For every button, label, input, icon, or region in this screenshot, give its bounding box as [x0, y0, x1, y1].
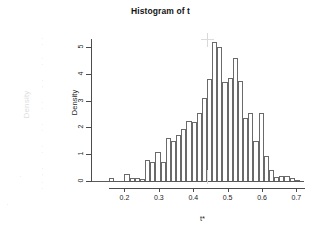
x-tick-mark [193, 188, 194, 192]
x-tick-label: 0.7 [286, 194, 306, 201]
histogram-figure: Histogram of t Density Density 012345 0.… [0, 0, 321, 232]
x-tick-mark [124, 188, 125, 192]
crosshair-artifact-vertical [207, 33, 208, 47]
x-axis-line [109, 188, 305, 189]
x-axis-title: t* [95, 214, 310, 223]
x-tick-mark [228, 188, 229, 192]
crosshair-artifact-vertical-lower [207, 170, 208, 184]
x-tick-mark [262, 188, 263, 192]
x-tick-label: 0.4 [183, 194, 203, 201]
x-tick-mark [296, 188, 297, 192]
x-tick-label: 0.3 [149, 194, 169, 201]
x-tick-mark [159, 188, 160, 192]
crosshair-artifact-horizontal [201, 39, 214, 40]
x-tick-label: 0.5 [218, 194, 238, 201]
x-tick-label: 0.6 [252, 194, 272, 201]
x-tick-label: 0.2 [114, 194, 134, 201]
plot-baseline [92, 181, 304, 182]
